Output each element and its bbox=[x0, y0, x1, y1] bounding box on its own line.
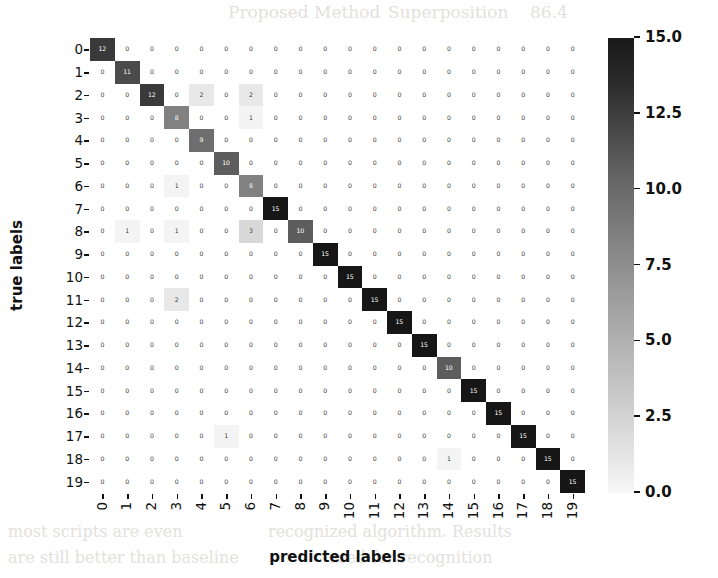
heatmap-cell: 0 bbox=[263, 84, 288, 107]
heatmap-cell: 0 bbox=[412, 106, 437, 129]
heatmap-cell: 0 bbox=[90, 425, 115, 448]
heatmap-cell: 0 bbox=[313, 61, 338, 84]
heatmap-cell: 0 bbox=[115, 106, 140, 129]
heatmap-cell: 0 bbox=[263, 220, 288, 243]
heatmap-cell: 0 bbox=[288, 152, 313, 175]
heatmap-cell: 0 bbox=[387, 220, 412, 243]
heatmap-cell: 0 bbox=[486, 61, 511, 84]
heatmap-cell: 0 bbox=[263, 129, 288, 152]
heatmap-cell: 0 bbox=[536, 84, 561, 107]
y-axis-tick-mark bbox=[84, 368, 89, 369]
heatmap-cell: 0 bbox=[486, 38, 511, 61]
heatmap-cell: 0 bbox=[115, 175, 140, 198]
heatmap-cell: 0 bbox=[189, 197, 214, 220]
heatmap-cell: 0 bbox=[214, 470, 239, 493]
heatmap-cell: 0 bbox=[536, 197, 561, 220]
heatmap-cell: 0 bbox=[214, 243, 239, 266]
heatmap-cell: 0 bbox=[239, 197, 264, 220]
heatmap-plot-area: 1200000000000000000000110000000000000000… bbox=[90, 38, 585, 493]
x-axis-tick-mark bbox=[548, 494, 549, 499]
x-axis-tick-mark bbox=[300, 494, 301, 499]
heatmap-cell: 2 bbox=[189, 84, 214, 107]
y-axis-tick-mark bbox=[84, 345, 89, 346]
heatmap-cell: 0 bbox=[511, 379, 536, 402]
x-axis-tick-mark bbox=[399, 494, 400, 499]
heatmap-cell: 0 bbox=[115, 311, 140, 334]
heatmap-cell: 0 bbox=[140, 243, 165, 266]
heatmap-cell: 0 bbox=[263, 470, 288, 493]
heatmap-cell: 0 bbox=[140, 425, 165, 448]
x-axis-tick-label: 2 bbox=[140, 502, 165, 511]
confusion-matrix-figure: 1200000000000000000000110000000000000000… bbox=[0, 0, 718, 578]
x-axis-tick-label: 9 bbox=[313, 502, 338, 511]
heatmap-cell: 0 bbox=[214, 38, 239, 61]
heatmap-cell: 0 bbox=[536, 220, 561, 243]
heatmap-cell: 0 bbox=[164, 38, 189, 61]
heatmap-cell: 0 bbox=[461, 84, 486, 107]
heatmap-cell-grid: 1200000000000000000000110000000000000000… bbox=[90, 38, 585, 493]
heatmap-cell: 0 bbox=[263, 357, 288, 380]
heatmap-cell: 0 bbox=[239, 379, 264, 402]
colorbar-tick-label: 10.0 bbox=[634, 180, 682, 198]
heatmap-cell: 0 bbox=[115, 266, 140, 289]
heatmap-cell: 0 bbox=[387, 61, 412, 84]
heatmap-cell: 12 bbox=[90, 38, 115, 61]
heatmap-cell: 0 bbox=[90, 311, 115, 334]
heatmap-cell: 0 bbox=[288, 334, 313, 357]
heatmap-cell: 0 bbox=[511, 197, 536, 220]
x-axis-tick-mark bbox=[201, 494, 202, 499]
heatmap-cell: 0 bbox=[338, 334, 363, 357]
y-axis-tick-mark bbox=[84, 72, 89, 73]
x-axis-tick-label: 15 bbox=[461, 502, 486, 519]
heatmap-cell: 0 bbox=[140, 175, 165, 198]
colorbar-tick-mark bbox=[634, 415, 640, 417]
heatmap-cell: 0 bbox=[461, 357, 486, 380]
heatmap-cell: 0 bbox=[362, 243, 387, 266]
y-axis-tick-mark bbox=[84, 277, 89, 278]
heatmap-cell: 0 bbox=[214, 106, 239, 129]
heatmap-cell: 0 bbox=[387, 152, 412, 175]
y-axis-tick-mark bbox=[84, 118, 89, 119]
heatmap-cell: 0 bbox=[437, 84, 462, 107]
heatmap-cell: 0 bbox=[214, 220, 239, 243]
heatmap-cell: 0 bbox=[461, 334, 486, 357]
x-axis-tick-mark bbox=[251, 494, 252, 499]
x-axis-tick-label: 19 bbox=[560, 502, 585, 519]
heatmap-cell: 0 bbox=[387, 129, 412, 152]
heatmap-cell: 0 bbox=[338, 38, 363, 61]
y-axis-tick-mark bbox=[84, 413, 89, 414]
heatmap-cell: 0 bbox=[239, 402, 264, 425]
heatmap-cell: 0 bbox=[412, 175, 437, 198]
heatmap-cell: 0 bbox=[140, 470, 165, 493]
heatmap-cell: 0 bbox=[536, 243, 561, 266]
heatmap-cell: 0 bbox=[461, 311, 486, 334]
heatmap-cell: 0 bbox=[338, 106, 363, 129]
heatmap-cell: 0 bbox=[536, 402, 561, 425]
heatmap-cell: 0 bbox=[560, 311, 585, 334]
heatmap-cell: 0 bbox=[387, 470, 412, 493]
heatmap-cell: 0 bbox=[560, 129, 585, 152]
heatmap-cell: 0 bbox=[164, 357, 189, 380]
y-axis-label-text: true labels bbox=[8, 220, 26, 311]
heatmap-cell: 0 bbox=[511, 334, 536, 357]
heatmap-cell: 0 bbox=[486, 220, 511, 243]
heatmap-cell: 0 bbox=[313, 38, 338, 61]
heatmap-cell: 0 bbox=[288, 402, 313, 425]
heatmap-cell: 0 bbox=[362, 61, 387, 84]
heatmap-cell: 0 bbox=[115, 448, 140, 471]
heatmap-cell: 0 bbox=[387, 175, 412, 198]
heatmap-cell: 0 bbox=[288, 175, 313, 198]
heatmap-cell: 0 bbox=[288, 106, 313, 129]
heatmap-cell: 1 bbox=[164, 175, 189, 198]
heatmap-cell: 0 bbox=[313, 106, 338, 129]
heatmap-cell: 0 bbox=[288, 379, 313, 402]
heatmap-cell: 0 bbox=[461, 470, 486, 493]
heatmap-cell: 0 bbox=[313, 357, 338, 380]
heatmap-cell: 0 bbox=[313, 84, 338, 107]
heatmap-cell: 0 bbox=[263, 175, 288, 198]
heatmap-cell: 0 bbox=[288, 425, 313, 448]
x-axis-tick-label: 17 bbox=[511, 502, 536, 519]
heatmap-cell: 0 bbox=[189, 311, 214, 334]
heatmap-cell: 0 bbox=[288, 84, 313, 107]
heatmap-cell: 0 bbox=[115, 197, 140, 220]
